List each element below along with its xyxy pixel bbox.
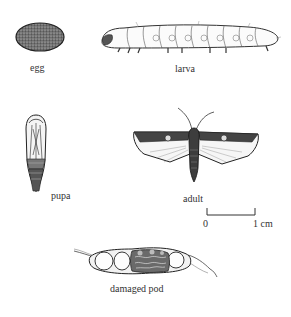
pupa-label: pupa [51, 190, 70, 202]
scale-bar-start-label: 0 [203, 218, 208, 230]
larva-label: larva [175, 63, 195, 75]
larva-illustration [98, 18, 282, 58]
scale-bar-end-label: 1 cm [253, 218, 273, 230]
scale-bar [206, 208, 256, 216]
egg-label: egg [30, 62, 44, 74]
adult-label: adult [183, 193, 203, 205]
damaged-pod-illustration [72, 243, 218, 279]
pupa-illustration [24, 113, 48, 193]
egg-illustration [14, 20, 66, 54]
adult-moth-illustration [130, 106, 262, 184]
damaged-pod-label: damaged pod [110, 283, 164, 295]
